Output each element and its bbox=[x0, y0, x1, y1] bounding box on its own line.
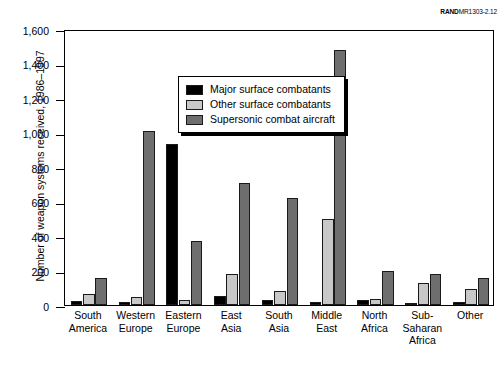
x-axis-category-label: Sub-SaharanAfrica bbox=[398, 309, 446, 347]
bar bbox=[310, 302, 322, 305]
rand-figure-id: RANDMR1303-2.12 bbox=[440, 9, 497, 16]
bar bbox=[274, 291, 286, 305]
x-axis-labels: SouthAmericaWesternEuropeEasternEuropeEa… bbox=[64, 309, 494, 365]
x-axis-label-line: Middle bbox=[303, 309, 351, 322]
figure-container: RANDMR1303-2.12 Number of weapon systems… bbox=[0, 0, 503, 367]
legend-label: Supersonic combat aircraft bbox=[210, 114, 335, 125]
bar-group bbox=[256, 31, 304, 305]
x-axis-category-label: EasternEurope bbox=[160, 309, 208, 334]
bar-group bbox=[447, 31, 495, 305]
legend-label: Other surface combatants bbox=[210, 99, 331, 110]
y-axis-tick-label: 1,600 bbox=[0, 26, 49, 37]
legend-swatch bbox=[186, 115, 203, 125]
x-axis-category-label: Other bbox=[446, 309, 494, 322]
bar bbox=[465, 289, 477, 305]
bar bbox=[239, 183, 251, 305]
y-axis-tick bbox=[56, 273, 65, 274]
bar bbox=[119, 302, 131, 305]
bar bbox=[262, 300, 274, 305]
bar bbox=[418, 283, 430, 305]
x-axis-label-line: Europe bbox=[160, 322, 208, 335]
bar-series-container bbox=[65, 31, 493, 305]
y-axis-tick bbox=[56, 100, 65, 101]
y-axis-tick-label: 1,200 bbox=[0, 95, 49, 106]
bar-group bbox=[113, 31, 161, 305]
x-axis-category-label: MiddleEast bbox=[303, 309, 351, 334]
x-axis-label-line: Sub- bbox=[398, 309, 446, 322]
bar bbox=[226, 274, 238, 305]
y-axis-tick-label: 1,400 bbox=[0, 60, 49, 71]
legend-item: Supersonic combat aircraft bbox=[186, 112, 335, 127]
x-axis-label-line: Africa bbox=[351, 322, 399, 335]
bar bbox=[71, 301, 83, 305]
y-axis-tick bbox=[56, 31, 65, 32]
legend-label: Major surface combatants bbox=[210, 84, 331, 95]
bar bbox=[287, 198, 299, 305]
x-axis-label-line: East bbox=[303, 322, 351, 335]
x-axis-label-line: Asia bbox=[255, 322, 303, 335]
chart-legend: Major surface combatantsOther surface co… bbox=[178, 76, 345, 133]
y-axis-tick bbox=[56, 238, 65, 239]
x-axis-label-line: North bbox=[351, 309, 399, 322]
y-axis-tick-label: 800 bbox=[0, 164, 49, 175]
x-axis-label-line: Asia bbox=[207, 322, 255, 335]
x-axis-label-line: Other bbox=[446, 309, 494, 322]
x-axis-category-label: NorthAfrica bbox=[351, 309, 399, 334]
bar bbox=[166, 144, 178, 305]
x-axis-label-line: Saharan bbox=[398, 322, 446, 335]
bar bbox=[357, 300, 369, 305]
y-axis-tick bbox=[56, 135, 65, 136]
bar bbox=[430, 274, 442, 305]
y-axis-tick-label: 200 bbox=[0, 267, 49, 278]
bar bbox=[95, 278, 107, 305]
bar bbox=[405, 303, 417, 305]
x-axis-label-line: East bbox=[207, 309, 255, 322]
y-axis-tick bbox=[56, 169, 65, 170]
x-axis-label-line: South bbox=[255, 309, 303, 322]
y-axis-tick-label: 1,000 bbox=[0, 129, 49, 140]
y-axis-tick bbox=[56, 307, 65, 308]
y-axis-tick-label: 0 bbox=[0, 302, 49, 313]
bar bbox=[143, 131, 155, 305]
legend-swatch bbox=[186, 100, 203, 110]
plot-area: 02004006008001,0001,2001,4001,600 Major … bbox=[64, 30, 494, 306]
bar bbox=[83, 294, 95, 305]
bar bbox=[370, 299, 382, 305]
x-axis-label-line: Europe bbox=[112, 322, 160, 335]
bar bbox=[322, 219, 334, 305]
y-axis-tick bbox=[56, 66, 65, 67]
bar-group bbox=[399, 31, 447, 305]
rand-brand-label: RAND bbox=[440, 8, 458, 15]
bar-group bbox=[208, 31, 256, 305]
x-axis-category-label: EastAsia bbox=[207, 309, 255, 334]
x-axis-label-line: Western bbox=[112, 309, 160, 322]
bar-group bbox=[161, 31, 209, 305]
x-axis-label-line: South bbox=[64, 309, 112, 322]
x-axis-category-label: SouthAsia bbox=[255, 309, 303, 334]
y-axis-tick-label: 400 bbox=[0, 233, 49, 244]
bar-group bbox=[352, 31, 400, 305]
x-axis-category-label: WesternEurope bbox=[112, 309, 160, 334]
x-axis-label-line: America bbox=[64, 322, 112, 335]
bar-group bbox=[65, 31, 113, 305]
legend-item: Other surface combatants bbox=[186, 97, 335, 112]
bar-group bbox=[304, 31, 352, 305]
bar bbox=[214, 296, 226, 305]
bar bbox=[191, 241, 203, 305]
x-axis-category-label: SouthAmerica bbox=[64, 309, 112, 334]
bar bbox=[453, 302, 465, 305]
bar bbox=[131, 297, 143, 305]
bar bbox=[179, 300, 191, 305]
x-axis-label-line: Eastern bbox=[160, 309, 208, 322]
legend-swatch bbox=[186, 85, 203, 95]
y-axis-tick bbox=[56, 204, 65, 205]
rand-code-label: MR1303-2.12 bbox=[459, 8, 497, 15]
x-axis-label-line: Africa bbox=[398, 334, 446, 347]
bar bbox=[478, 278, 490, 305]
y-axis-tick-label: 600 bbox=[0, 198, 49, 209]
bar bbox=[382, 271, 394, 305]
legend-item: Major surface combatants bbox=[186, 82, 335, 97]
